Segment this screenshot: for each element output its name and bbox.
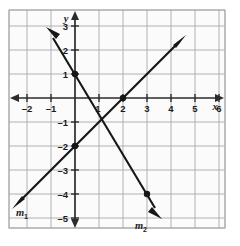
x-tick-label-3: 3 <box>144 103 149 114</box>
x-tick-label--1: –1 <box>46 103 57 114</box>
y-tick-label-1: 1 <box>63 69 69 80</box>
x-tick-label--2: –2 <box>22 103 33 114</box>
x-tick-label-4: 4 <box>168 103 174 114</box>
y-axis-label: y <box>62 13 69 24</box>
y-tick-label--5: –5 <box>57 213 68 224</box>
x-axis-label: x <box>211 101 217 112</box>
graph-figure: –2 –1 1 2 3 4 5 6 3 2 1 –1 –2 –3 –4 –5 y… <box>0 0 240 246</box>
x-tick-label-5: 5 <box>192 103 198 114</box>
line-m2-point-3--4 <box>144 191 150 197</box>
coordinate-plane-svg: –2 –1 1 2 3 4 5 6 3 2 1 –1 –2 –3 –4 –5 y… <box>0 0 240 246</box>
plot-background <box>9 10 225 228</box>
x-tick-label-2: 2 <box>120 103 125 114</box>
line-m2-point-0-1 <box>72 71 78 77</box>
line-m1-label-text: m <box>16 207 24 218</box>
line-m1-point-0--2 <box>72 143 78 149</box>
line-m1-label-subscript: 1 <box>24 213 28 220</box>
line-m1-point-2-0 <box>120 95 126 101</box>
y-tick-label--1: –1 <box>57 117 68 128</box>
y-tick-label--4: –4 <box>57 189 68 200</box>
y-tick-label--2: –2 <box>57 141 68 152</box>
line-m2-label-subscript: 2 <box>143 226 147 233</box>
line-m2-label-text: m <box>135 220 143 231</box>
y-tick-label--3: –3 <box>57 165 68 176</box>
